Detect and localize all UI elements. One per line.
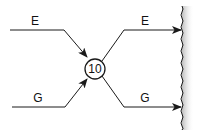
- wall-shading: [182, 6, 194, 130]
- diagram-canvas: 10 E G E G: [0, 0, 197, 134]
- input-e-line: [10, 30, 87, 57]
- input-g-line: [12, 79, 87, 107]
- input-e-label: E: [31, 14, 39, 28]
- output-g-label: G: [140, 91, 149, 105]
- output-e-label: E: [141, 14, 149, 28]
- input-g-label: G: [33, 91, 42, 105]
- node-label: 10: [88, 62, 102, 76]
- output-e-line: [102, 30, 181, 61]
